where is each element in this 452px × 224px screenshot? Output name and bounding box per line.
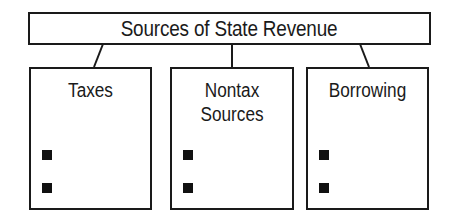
square-bullet-icon bbox=[319, 183, 329, 193]
diagram-title: Sources of State Revenue bbox=[121, 16, 338, 42]
square-bullet-icon bbox=[183, 183, 193, 193]
category-label-line: Nontax bbox=[180, 78, 283, 102]
square-bullet-icon bbox=[42, 183, 52, 193]
connector-borrowing bbox=[360, 44, 369, 67]
category-nontax-sources: Nontax Sources bbox=[170, 67, 294, 210]
category-label: Nontax Sources bbox=[180, 78, 283, 126]
category-label: Borrowing bbox=[316, 78, 418, 102]
category-borrowing: Borrowing bbox=[306, 67, 429, 210]
category-taxes: Taxes bbox=[29, 67, 152, 210]
category-label: Taxes bbox=[39, 78, 141, 102]
category-label-line: Sources bbox=[180, 102, 283, 126]
square-bullet-icon bbox=[183, 150, 193, 160]
square-bullet-icon bbox=[42, 150, 52, 160]
root-node: Sources of State Revenue bbox=[28, 12, 431, 45]
square-bullet-icon bbox=[319, 150, 329, 160]
connector-taxes bbox=[94, 44, 103, 67]
